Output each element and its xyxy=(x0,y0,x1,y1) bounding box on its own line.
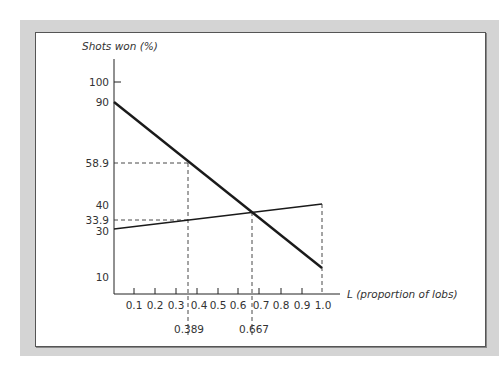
x-ticks xyxy=(134,288,302,294)
y-tick-label-40: 40 xyxy=(96,199,109,211)
x-tick-label-0-6: 0.6 xyxy=(230,299,247,311)
y-tick-label-90: 90 xyxy=(96,96,109,108)
x-tick-label-0-2: 0.2 xyxy=(147,299,164,311)
series-thick-declining xyxy=(114,102,322,268)
x-tick-label-1-0: 1.0 xyxy=(315,299,332,311)
y-tick-label-10: 10 xyxy=(96,271,109,283)
x-tick-label-0-4: 0.4 xyxy=(191,299,208,311)
x-tick-label-0-8: 0.8 xyxy=(273,299,290,311)
x-tick-label-0-3: 0.3 xyxy=(168,299,185,311)
y-tick-label-100: 100 xyxy=(89,76,109,88)
x-tick-label-0-5: 0.5 xyxy=(210,299,227,311)
x-axis-title: L (proportion of lobs) xyxy=(347,288,458,300)
y-axis-title: Shots won (%) xyxy=(82,40,158,52)
x-annotation-0-389: 0.389 xyxy=(174,323,204,335)
chart: Shots won (%) 100 90 58.9 40 33.9 30 10 … xyxy=(0,0,499,379)
y-tick-label-30: 30 xyxy=(96,225,109,237)
x-tick-label-0-1: 0.1 xyxy=(126,299,143,311)
x-tick-label-0-9: 0.9 xyxy=(294,299,311,311)
series-thin-rising xyxy=(114,204,322,229)
x-annotation-0-667: 0.667 xyxy=(239,323,269,335)
y-tick-label-58-9: 58.9 xyxy=(86,157,109,169)
x-tick-label-0-7: 0.7 xyxy=(253,299,270,311)
